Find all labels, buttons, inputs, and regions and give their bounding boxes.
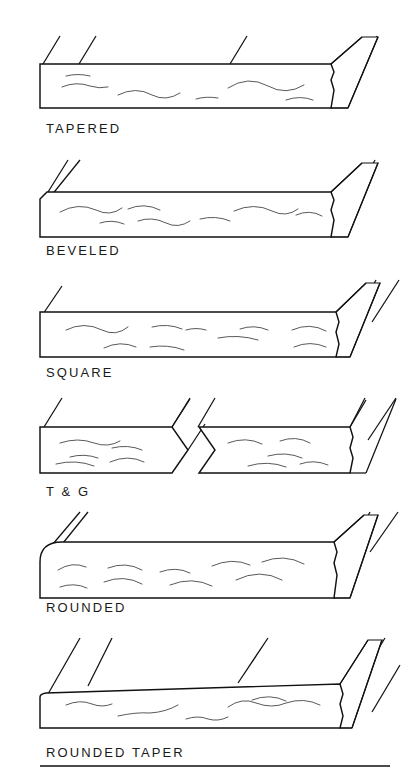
hatch-lines-tapered <box>43 36 377 64</box>
board-body-tapered <box>40 64 334 108</box>
end-face-beveled <box>331 163 378 237</box>
board-body-beveled <box>40 192 334 237</box>
board-body-tng-right <box>199 427 353 473</box>
panel-square: SQUARE <box>40 280 399 380</box>
panel-label-tng: T & G <box>46 484 90 499</box>
board-body-square <box>40 312 339 357</box>
board-body-rounded <box>40 542 337 598</box>
panel-label-beveled: BEVELED <box>46 243 121 258</box>
panel-label-rounded: ROUNDED <box>46 600 126 615</box>
panel-tongue-and-groove: T & G <box>40 398 396 499</box>
board-body-tng-left <box>40 427 188 473</box>
panel-beveled: BEVELED <box>40 160 378 258</box>
panel-label-rounded-taper: ROUNDED TAPER <box>46 745 185 760</box>
end-face-rounded <box>334 515 378 598</box>
panel-label-square: SQUARE <box>46 365 114 380</box>
panel-tapered: TAPERED <box>40 36 378 136</box>
end-face-rounded-taper <box>340 640 382 728</box>
hatch-lines-beveled <box>48 160 375 196</box>
panel-rounded-taper: ROUNDED TAPER <box>40 638 400 760</box>
panel-label-tapered: TAPERED <box>46 121 121 136</box>
panel-rounded: ROUNDED <box>40 512 398 615</box>
board-body-rounded-taper <box>40 684 343 728</box>
end-face-tapered <box>331 37 378 108</box>
drywall-edge-profiles-diagram: TAPERED BEVELED <box>0 0 417 769</box>
